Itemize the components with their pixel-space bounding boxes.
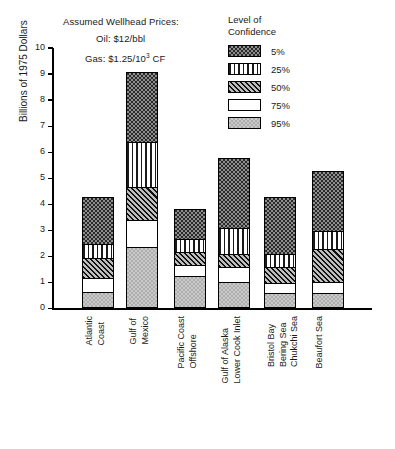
y-tick bbox=[48, 230, 53, 231]
bar-segment-5pct bbox=[265, 198, 295, 255]
x-axis-label-line: Bering Sea bbox=[278, 316, 290, 367]
bar-gulf-of-alaska-lower-cook-inlet[interactable] bbox=[218, 158, 250, 308]
x-axis-label-line: Mexico bbox=[140, 316, 152, 345]
bar-segment-75pct bbox=[219, 268, 249, 282]
bar-segment-50pct bbox=[265, 268, 295, 284]
x-axis-label-line: Pacific Coast bbox=[176, 316, 188, 369]
x-axis-label: Bristol BayBering SeaChukchi Sea bbox=[266, 316, 301, 367]
y-tick-label: 0 bbox=[23, 302, 45, 312]
bar-segment-75pct bbox=[265, 284, 295, 294]
bar-segment-95pct bbox=[313, 294, 343, 307]
x-axis-label-line: Gulf of bbox=[128, 316, 140, 345]
y-axis-title: Billions of 1975 Dollars bbox=[18, 20, 29, 122]
bar-segment-25pct bbox=[219, 229, 249, 255]
bar-segment-5pct bbox=[83, 198, 113, 245]
bar-segment-95pct bbox=[83, 293, 113, 307]
y-tick-label: 2 bbox=[23, 250, 45, 260]
y-axis-line bbox=[52, 48, 54, 310]
bar-segment-75pct bbox=[313, 283, 343, 295]
bar-bristol-bay-bering-sea-chukchi-sea[interactable] bbox=[264, 197, 296, 308]
bar-segment-25pct bbox=[127, 143, 157, 187]
bar-segment-95pct bbox=[265, 294, 295, 307]
bar-segment-75pct bbox=[83, 279, 113, 293]
y-tick-label: 3 bbox=[23, 224, 45, 234]
legend-title-line1: Level of bbox=[228, 14, 290, 26]
bar-segment-50pct bbox=[219, 255, 249, 268]
bar-segment-50pct bbox=[83, 259, 113, 279]
y-tick bbox=[48, 47, 53, 48]
oil-price-text: Oil: $12/bbl bbox=[96, 33, 145, 45]
x-axis-line bbox=[52, 308, 372, 310]
bar-segment-25pct bbox=[83, 245, 113, 259]
y-tick bbox=[48, 256, 53, 257]
bar-segment-5pct bbox=[313, 172, 343, 232]
assumed-prices-title: Assumed Wellhead Prices: bbox=[63, 16, 179, 28]
bar-segment-5pct bbox=[127, 73, 157, 143]
x-axis-label-line: Coast bbox=[96, 316, 108, 346]
bar-segment-5pct bbox=[219, 159, 249, 229]
y-tick-label: 4 bbox=[23, 198, 45, 208]
bar-segment-50pct bbox=[127, 188, 157, 222]
x-axis-label: Gulf of AlaskaLower Cook Inlet bbox=[220, 316, 243, 384]
x-axis-label: AtlanticCoast bbox=[84, 316, 107, 346]
bar-segment-95pct bbox=[175, 277, 205, 307]
y-tick bbox=[48, 178, 53, 179]
bar-pacific-coast-offshore[interactable] bbox=[174, 209, 206, 309]
y-tick-label: 5 bbox=[23, 172, 45, 182]
y-tick bbox=[48, 99, 53, 100]
bar-segment-50pct bbox=[175, 253, 205, 266]
bar-segment-95pct bbox=[219, 283, 249, 308]
bar-segment-95pct bbox=[127, 248, 157, 308]
stacked-bar-chart: Assumed Wellhead Prices: Oil: $12/bbl Ga… bbox=[0, 0, 395, 449]
y-tick-label: 1 bbox=[23, 276, 45, 286]
y-tick bbox=[48, 126, 53, 127]
bar-segment-25pct bbox=[265, 255, 295, 268]
x-axis-label-line: Beaufort Sea bbox=[314, 316, 326, 369]
x-axis-label-line: Atlantic bbox=[84, 316, 96, 346]
x-axis-label: Beaufort Sea bbox=[314, 316, 326, 369]
bar-segment-75pct bbox=[175, 266, 205, 278]
bar-segment-5pct bbox=[175, 210, 205, 240]
bar-segment-50pct bbox=[313, 250, 343, 283]
y-tick bbox=[48, 73, 53, 74]
legend-title-line2: Confidence bbox=[228, 26, 290, 38]
x-axis-label: Pacific CoastOffshore bbox=[176, 316, 199, 369]
bar-gulf-of-mexico[interactable] bbox=[126, 72, 158, 308]
x-axis-label: Gulf ofMexico bbox=[128, 316, 151, 345]
x-axis-label-line: Bristol Bay bbox=[266, 316, 278, 367]
y-tick bbox=[48, 204, 53, 205]
bar-atlantic-coast[interactable] bbox=[82, 197, 114, 308]
bar-segment-75pct bbox=[127, 221, 157, 247]
x-axis-label-line: Chukchi Sea bbox=[289, 316, 301, 367]
bar-segment-25pct bbox=[175, 240, 205, 253]
y-tick-label: 6 bbox=[23, 146, 45, 156]
x-axis-label-line: Lower Cook Inlet bbox=[232, 316, 244, 384]
bar-beaufort-sea[interactable] bbox=[312, 171, 344, 308]
x-axis-label-line: Gulf of Alaska bbox=[220, 316, 232, 384]
y-tick bbox=[48, 308, 53, 309]
y-tick bbox=[48, 152, 53, 153]
y-tick bbox=[48, 282, 53, 283]
bar-segment-25pct bbox=[313, 232, 343, 250]
plot-area: 012345678910 AtlanticCoastGulf ofMexicoP… bbox=[52, 48, 372, 310]
x-axis-label-line: Offshore bbox=[188, 316, 200, 369]
